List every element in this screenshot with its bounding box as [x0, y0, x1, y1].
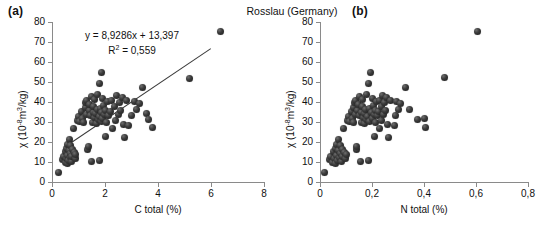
- y-tick: [48, 62, 52, 63]
- data-point: [149, 124, 156, 131]
- regression-equation: y = 8,9286x + 13,397: [62, 30, 202, 42]
- data-point: [117, 107, 124, 114]
- data-point: [125, 122, 132, 129]
- y-axis-title: χ (10-8m3/kg): [16, 90, 28, 148]
- data-point: [402, 84, 409, 91]
- data-point: [139, 84, 146, 91]
- data-point: [414, 116, 421, 123]
- data-point: [382, 107, 389, 114]
- data-point: [70, 125, 77, 132]
- data-point: [395, 106, 402, 113]
- data-point: [392, 112, 399, 119]
- y-tick-label: 60: [291, 57, 313, 67]
- data-point: [133, 106, 140, 113]
- x-tick-label: 0,4: [409, 189, 439, 199]
- x-tick: [264, 183, 265, 187]
- y-tick-label: 50: [23, 77, 45, 87]
- x-tick: [52, 183, 53, 187]
- data-point: [367, 69, 374, 76]
- y-axis-line: [52, 22, 53, 183]
- data-point: [397, 100, 404, 107]
- x-tick-label: 0,2: [357, 189, 387, 199]
- data-point: [441, 74, 448, 81]
- x-tick: [320, 183, 321, 187]
- data-point: [121, 134, 128, 141]
- x-axis-title: N total (%): [344, 204, 504, 215]
- y-tick-label: 60: [23, 57, 45, 67]
- data-point: [85, 143, 92, 150]
- y-tick: [316, 162, 320, 163]
- data-point: [128, 112, 135, 119]
- x-tick: [528, 183, 529, 187]
- y-tick: [316, 102, 320, 103]
- x-tick: [211, 183, 212, 187]
- y-axis-line: [320, 22, 321, 183]
- data-point: [55, 169, 62, 176]
- y-tick: [316, 82, 320, 83]
- data-point: [136, 100, 143, 107]
- y-tick-label: 10: [291, 157, 313, 167]
- y-tick: [48, 102, 52, 103]
- y-tick-label: 50: [291, 77, 313, 87]
- x-tick-label: 0: [305, 189, 335, 199]
- data-point: [343, 151, 350, 158]
- y-tick: [48, 122, 52, 123]
- y-tick: [316, 22, 320, 23]
- data-point: [96, 157, 103, 164]
- x-tick: [476, 183, 477, 187]
- data-point: [353, 143, 360, 150]
- data-point: [391, 122, 398, 129]
- y-tick: [316, 62, 320, 63]
- y-tick: [48, 82, 52, 83]
- data-point: [103, 119, 110, 126]
- x-tick: [424, 183, 425, 187]
- y-axis-title: χ (10-8m3/kg): [284, 90, 296, 148]
- regression-r2: R2 = 0,559: [62, 42, 202, 57]
- data-point: [384, 121, 391, 128]
- data-point: [385, 134, 392, 141]
- data-point: [421, 115, 428, 122]
- x-tick: [158, 183, 159, 187]
- data-point: [96, 80, 103, 87]
- data-point: [98, 69, 105, 76]
- data-point: [321, 169, 328, 176]
- y-tick-label: 70: [23, 37, 45, 47]
- x-tick-label: 4: [143, 189, 173, 199]
- y-tick-label: 0: [291, 177, 313, 187]
- data-point: [474, 28, 481, 35]
- scatter-panel-a: 0102030405060708002468C total (%)χ (10-8…: [0, 0, 270, 226]
- data-point: [357, 158, 364, 165]
- y-tick-label: 70: [291, 37, 313, 47]
- x-axis-title: C total (%): [78, 204, 238, 215]
- y-tick-label: 80: [291, 17, 313, 27]
- data-point: [376, 125, 383, 132]
- data-point: [123, 97, 130, 104]
- x-tick: [372, 183, 373, 187]
- x-tick-label: 6: [196, 189, 226, 199]
- scatter-panel-b: 0102030405060708000,20,40,60,8N total (%…: [270, 0, 537, 226]
- y-tick: [48, 42, 52, 43]
- x-tick-label: 0,8: [513, 189, 537, 199]
- y-tick-label: 0: [23, 177, 45, 187]
- data-point: [88, 158, 95, 165]
- figure-container: (a) Rosslau (Germany) (b) 01020304050607…: [0, 0, 537, 226]
- data-point: [102, 133, 109, 140]
- data-point: [340, 125, 347, 132]
- data-point: [109, 125, 116, 132]
- data-point: [217, 28, 224, 35]
- y-tick: [316, 142, 320, 143]
- y-tick: [316, 122, 320, 123]
- data-point: [365, 157, 372, 164]
- x-tick-label: 0,6: [461, 189, 491, 199]
- y-tick: [48, 162, 52, 163]
- data-point: [422, 124, 429, 131]
- x-tick: [105, 183, 106, 187]
- data-point: [350, 119, 357, 126]
- y-tick: [48, 22, 52, 23]
- data-point: [371, 133, 378, 140]
- x-tick-label: 2: [90, 189, 120, 199]
- data-point: [112, 117, 119, 124]
- data-point: [406, 106, 413, 113]
- data-point: [186, 75, 193, 82]
- data-point: [80, 119, 87, 126]
